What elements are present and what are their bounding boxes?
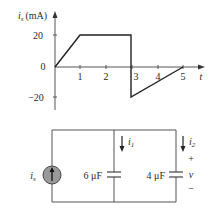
x-tick-label-2: 2 — [104, 71, 109, 82]
v-minus-sign: − — [188, 183, 194, 194]
y-tick-label-20: 20 — [33, 30, 43, 41]
y-axis-label: is(mA) — [18, 10, 47, 23]
x-tick-label-1: 1 — [78, 71, 83, 82]
waveform-line — [55, 35, 183, 97]
source-label: is — [30, 170, 36, 183]
y-label-sub: s — [21, 15, 24, 23]
v-label: v — [189, 169, 194, 180]
current-source-icon — [43, 166, 61, 184]
y-label-unit: (mA) — [26, 10, 48, 22]
i2-label: i2 — [189, 136, 196, 149]
y-tick-label-neg20: −20 — [28, 92, 44, 103]
cap1-label: 6 μF — [84, 170, 103, 181]
y-tick-label-0: 0 — [41, 61, 46, 72]
capacitor-4uf-icon — [169, 172, 183, 177]
cap2-label: 4 μF — [147, 170, 166, 181]
waveform-chart: is(mA) 20 0 −20 1 2 3 4 5 t — [18, 10, 205, 110]
i1-arrow-icon — [120, 136, 125, 152]
x-tick-label-5: 5 — [181, 71, 186, 82]
source-label-sub: s — [33, 175, 36, 183]
i2-label-sub: 2 — [192, 141, 196, 149]
i1-label: i1 — [128, 136, 134, 149]
x-axis-label: t — [200, 71, 203, 82]
v-plus-sign: + — [188, 153, 194, 164]
circuit-diagram: is 6 μF i1 4 μF i2 — [30, 130, 196, 202]
i1-label-sub: 1 — [131, 141, 135, 149]
i2-arrow-icon — [181, 136, 186, 152]
x-axis-arrow-icon — [198, 65, 205, 70]
y-axis-arrow-icon — [53, 11, 58, 18]
x-tick-label-3: 3 — [134, 71, 139, 82]
capacitor-6uf-icon — [107, 172, 121, 177]
figure: is(mA) 20 0 −20 1 2 3 4 5 t — [0, 0, 213, 214]
